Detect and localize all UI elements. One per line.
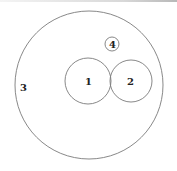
label-circle-3: 3	[20, 82, 27, 93]
circle-diagram: 1 2 3 4	[0, 0, 177, 171]
label-circle-1: 1	[85, 76, 92, 87]
label-circle-2: 2	[127, 76, 134, 87]
label-circle-4: 4	[109, 39, 116, 50]
